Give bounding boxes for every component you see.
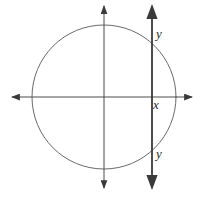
diagram-canvas: y x y: [0, 0, 200, 202]
label-x: x: [152, 97, 159, 112]
circle-secant-diagram: y x y: [0, 0, 200, 202]
label-y-bottom: y: [154, 146, 162, 161]
label-y-top: y: [154, 26, 162, 41]
